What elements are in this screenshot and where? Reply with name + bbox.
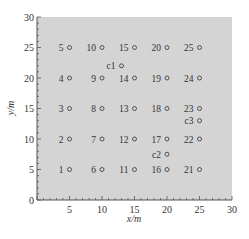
point-label: 20 [152, 43, 162, 53]
point-label: 3 [59, 104, 64, 114]
x-tick-label: 5 [67, 204, 72, 215]
x-tick-label: 10 [97, 204, 107, 215]
point-label: 6 [91, 165, 96, 175]
y-tick-label: 0 [29, 195, 34, 206]
point-label: 5 [59, 43, 64, 53]
point-label: c3 [185, 116, 194, 126]
point-label: 15 [119, 43, 129, 53]
point-label: 21 [184, 165, 194, 175]
y-tick-label: 30 [24, 12, 34, 23]
y-tick-label: 20 [24, 73, 34, 84]
point-label: 16 [152, 165, 162, 175]
x-tick-label: 30 [227, 204, 237, 215]
point-label: 19 [152, 74, 162, 84]
y-axis-title: y/m [5, 101, 16, 116]
x-tick-label: 20 [162, 204, 172, 215]
point-label: 9 [91, 74, 96, 84]
point-label: 24 [184, 74, 194, 84]
x-axis-title: x/m [126, 213, 141, 224]
point-label: 18 [152, 104, 162, 114]
point-label: 12 [119, 135, 129, 145]
point-label: 10 [87, 43, 97, 53]
point-label: c1 [107, 61, 116, 71]
point-label: c2 [152, 150, 161, 160]
point-label: 8 [91, 104, 96, 114]
plot-area [37, 17, 232, 200]
x-tick-label: 25 [195, 204, 205, 215]
point-label: 13 [119, 104, 129, 114]
point-label: 2 [59, 135, 64, 145]
point-label: 22 [184, 135, 194, 145]
point-label: 14 [119, 74, 129, 84]
point-label: 23 [184, 104, 194, 114]
point-label: 1 [59, 165, 64, 175]
y-tick-label: 25 [24, 42, 34, 53]
point-label: 25 [184, 43, 194, 53]
y-tick-label: 5 [29, 164, 34, 175]
scatter-chart: 51015202530051015202530 1234567891011121… [0, 0, 249, 239]
point-label: 4 [59, 74, 64, 84]
point-label: 11 [119, 165, 128, 175]
y-tick-label: 10 [24, 134, 34, 145]
point-label: 17 [152, 135, 162, 145]
y-tick-label: 15 [24, 103, 34, 114]
point-label: 7 [91, 135, 96, 145]
